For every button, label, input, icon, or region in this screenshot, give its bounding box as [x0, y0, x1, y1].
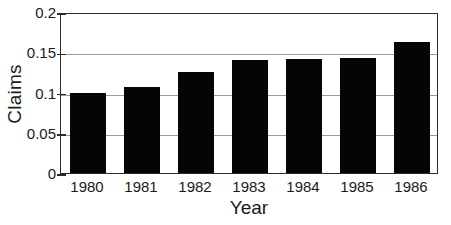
x-axis-tick-label: 1981 — [114, 178, 168, 195]
y-axis-tick-label: 0.15 — [20, 45, 56, 60]
x-axis-tick-label: 1983 — [222, 178, 276, 195]
y-axis-tick-label: 0.05 — [20, 126, 56, 141]
y-axis-tick-label: 0.2 — [20, 5, 56, 20]
x-axis-title: Year — [60, 197, 438, 219]
bar[interactable] — [340, 58, 377, 173]
x-axis-tick-label: 1984 — [276, 178, 330, 195]
x-axis-tick-label: 1985 — [330, 178, 384, 195]
bar[interactable] — [178, 72, 215, 173]
x-axis-tick-label: 1986 — [384, 178, 438, 195]
bar[interactable] — [286, 59, 323, 173]
bar-series — [61, 14, 437, 173]
x-axis-tick-label: 1982 — [168, 178, 222, 195]
x-axis-tick-labels: 1980198119821983198419851986 — [60, 178, 438, 198]
y-axis-tick-labels: 00.050.10.150.2 — [20, 0, 56, 225]
y-axis-tick-label: 0 — [20, 166, 56, 181]
bar[interactable] — [70, 93, 107, 174]
bar-chart-figure: Claims 00.050.10.150.2 19801981198219831… — [0, 0, 451, 225]
y-axis-tick-mark — [57, 174, 66, 176]
plot-area — [60, 13, 438, 174]
bar[interactable] — [232, 60, 269, 173]
bar[interactable] — [124, 87, 161, 173]
y-axis-tick-label: 0.1 — [20, 86, 56, 101]
x-axis-tick-label: 1980 — [60, 178, 114, 195]
bar[interactable] — [394, 42, 431, 173]
